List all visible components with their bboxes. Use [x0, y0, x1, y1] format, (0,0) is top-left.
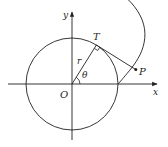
P-label: P	[138, 66, 146, 77]
theta-arc	[76, 77, 80, 84]
x-axis-label: x	[153, 87, 158, 97]
r-label: r	[77, 56, 82, 66]
origin-label: O	[60, 89, 68, 100]
y-axis-label: y	[62, 10, 69, 20]
diagram-svg: y x O T P r θ	[0, 0, 168, 147]
T-label: T	[93, 31, 101, 42]
point-P-dot	[134, 68, 137, 71]
theta-label: θ	[82, 70, 88, 80]
involute-diagram: y x O T P r θ	[0, 0, 168, 147]
tangent-line-TP	[96, 45, 135, 70]
